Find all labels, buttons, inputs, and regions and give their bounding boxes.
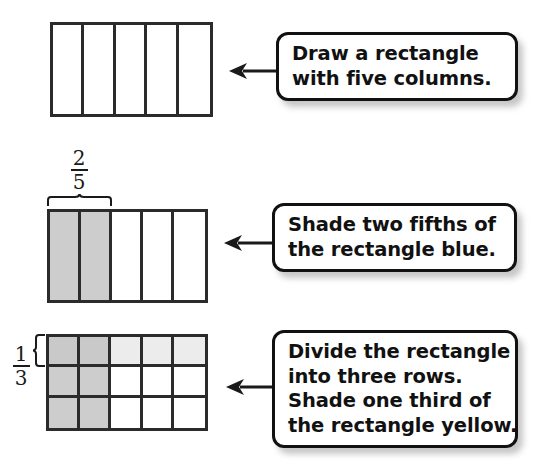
- callout-step-one: Draw a rectangle with five columns.: [276, 32, 518, 101]
- grid-cell: [81, 212, 112, 300]
- grid-cell: [80, 367, 111, 397]
- callout-line: Divide the rectangle: [288, 340, 504, 365]
- brace-left-one-third-icon: [33, 334, 46, 367]
- grid-three-rows-five-columns: [46, 334, 208, 431]
- arrow-to-step-two-icon: [224, 233, 272, 253]
- grid-cell: [111, 398, 142, 428]
- fraction-denominator: 5: [62, 172, 96, 192]
- grid-cell: [143, 398, 174, 428]
- grid-cell: [111, 337, 142, 367]
- arrow-to-step-one-icon: [229, 61, 277, 81]
- callout-step-two: Shade two fifths of the rectangle blue.: [272, 203, 517, 272]
- callout-line: Shade two fifths of: [288, 213, 503, 238]
- fraction-numerator: 2: [62, 148, 96, 168]
- grid-cell: [143, 337, 174, 367]
- callout-step-three: Divide the rectangle into three rows. Sh…: [272, 330, 518, 448]
- grid-cell: [49, 398, 80, 428]
- grid-cell: [50, 212, 81, 300]
- fraction-denominator: 3: [6, 368, 36, 388]
- grid-cell: [179, 25, 210, 114]
- callout-line: the rectangle blue.: [288, 238, 503, 263]
- callout-line: the rectangle yellow.: [288, 414, 504, 439]
- fraction-numerator: 1: [6, 344, 36, 364]
- fraction-label-two-fifths: 2 5: [62, 148, 96, 193]
- fraction-label-one-third: 1 3: [6, 344, 36, 389]
- arrow-to-step-three-icon: [226, 377, 274, 397]
- grid-cell: [49, 337, 80, 367]
- grid-cell: [80, 337, 111, 367]
- rectangle-five-columns: [50, 22, 213, 117]
- brace-top-two-fifths-icon: [47, 194, 112, 207]
- grid-cell: [80, 398, 111, 428]
- callout-line: Draw a rectangle: [292, 42, 504, 67]
- grid-cell: [112, 212, 143, 300]
- callout-line: with five columns.: [292, 67, 504, 92]
- grid-cell: [174, 337, 205, 367]
- grid-cell: [111, 367, 142, 397]
- grid-cell: [84, 25, 115, 114]
- grid-cell: [174, 212, 205, 300]
- grid-cell: [49, 367, 80, 397]
- grid-cell: [147, 25, 178, 114]
- grid-cell: [143, 212, 174, 300]
- callout-line: into three rows.: [288, 365, 504, 390]
- grid-cell: [143, 367, 174, 397]
- grid-cell: [53, 25, 84, 114]
- grid-cell: [116, 25, 147, 114]
- callout-line: Shade one third of: [288, 389, 504, 414]
- grid-cell: [174, 367, 205, 397]
- grid-cell: [174, 398, 205, 428]
- rectangle-two-fifths-shaded: [47, 209, 208, 303]
- worksheet-canvas: Draw a rectangle with five columns. 2 5 …: [0, 0, 545, 474]
